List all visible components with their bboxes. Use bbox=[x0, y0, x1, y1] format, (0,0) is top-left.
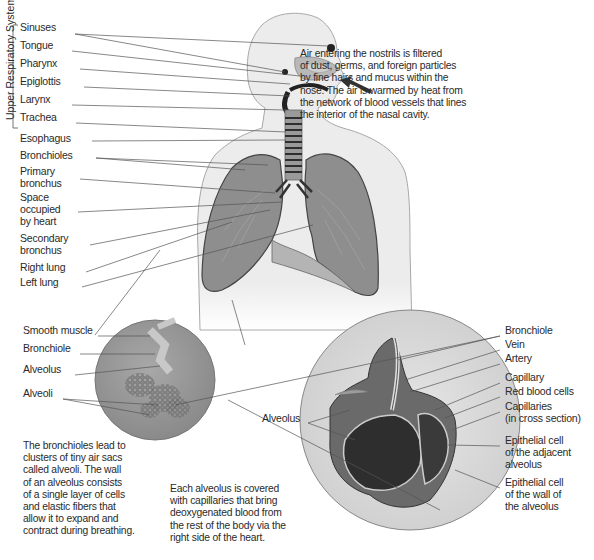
anatomy-label-7: Bronchioles bbox=[20, 149, 73, 161]
anatomy-label-2: Pharynx bbox=[20, 57, 57, 69]
note-line: The bronchioles lead to bbox=[23, 440, 163, 452]
anatomy-label-12: by heart bbox=[20, 215, 56, 227]
upper-respiratory-system-label: Upper Respiratory System bbox=[4, 0, 16, 120]
cross-section-label-6: (in cross section) bbox=[505, 412, 581, 424]
alveoli-label-2: Alveolus bbox=[23, 363, 61, 375]
alveoli-label-3: Alveoli bbox=[23, 387, 53, 399]
cross-section-label-5: Capillaries bbox=[505, 400, 552, 412]
note-line: the rest of the body via the bbox=[170, 520, 320, 532]
anatomy-label-11: occupied bbox=[20, 203, 60, 215]
anatomy-label-14: bronchus bbox=[20, 244, 62, 256]
note-line: the network of blood vessels that lines bbox=[300, 97, 500, 109]
anatomy-label-5: Trachea bbox=[20, 111, 57, 123]
note-line: of an alveolus consists bbox=[23, 477, 163, 489]
note-line: Air entering the nostrils is filtered bbox=[300, 48, 500, 60]
anatomy-label-3: Epiglottis bbox=[20, 75, 61, 87]
note-line: the interior of the nasal cavity. bbox=[300, 109, 500, 121]
anatomy-label-0: Sinuses bbox=[20, 21, 56, 33]
anatomy-label-13: Secondary bbox=[20, 232, 68, 244]
note-line: allow it to expand and bbox=[23, 513, 163, 525]
bronchioles-note: The bronchioles lead toclusters of tiny … bbox=[23, 440, 163, 538]
note-line: clusters of tiny air sacs bbox=[23, 452, 163, 464]
cross-section-label-3: Capillary bbox=[505, 371, 544, 383]
cross-section-label-8: of the adjacent bbox=[505, 446, 571, 458]
cross-section-label-4: Red blood cells bbox=[505, 385, 574, 397]
cross-section-label-7: Epithelial cell bbox=[505, 434, 563, 446]
capillary-note: Each alveolus is coveredwith capillaries… bbox=[170, 483, 320, 544]
note-line: deoxygenated blood from bbox=[170, 507, 320, 519]
cross-section-label-12: the alveolus bbox=[505, 500, 559, 512]
anatomy-label-10: Space bbox=[20, 191, 49, 203]
note-line: Each alveolus is covered bbox=[170, 483, 320, 495]
cross-section-label-2: Artery bbox=[505, 352, 532, 364]
cross-section-label-11: of the wall of bbox=[505, 488, 561, 500]
cross-section-label-0: Bronchiole bbox=[505, 324, 553, 336]
alveoli-label-0: Smooth muscle bbox=[23, 324, 93, 336]
note-line: of a single layer of cells bbox=[23, 489, 163, 501]
alveoli-label-1: Bronchiole bbox=[23, 342, 71, 354]
cross-section-label-9: alveolus bbox=[505, 458, 542, 470]
note-line: of dust, germs, and foreign particles bbox=[300, 60, 500, 72]
anatomy-label-16: Left lung bbox=[20, 276, 58, 288]
note-line: and elastic fibers that bbox=[23, 501, 163, 513]
anatomy-label-8: Primary bbox=[20, 165, 55, 177]
anatomy-label-9: bronchus bbox=[20, 177, 62, 189]
nasal-cavity-note: Air entering the nostrils is filteredof … bbox=[300, 48, 500, 121]
alveolus-inner-label: Alveolus bbox=[262, 412, 300, 424]
note-line: by fine hairs and mucus within the bbox=[300, 72, 500, 84]
anatomy-label-6: Esophagus bbox=[20, 132, 71, 144]
note-line: contract during breathing. bbox=[23, 525, 163, 537]
cross-section-label-1: Vein bbox=[505, 338, 525, 350]
anatomy-label-4: Larynx bbox=[20, 93, 50, 105]
note-line: nose. The air is warmed by heat from bbox=[300, 85, 500, 97]
cross-section-label-10: Epithelial cell bbox=[505, 476, 563, 488]
anatomy-label-15: Right lung bbox=[20, 261, 65, 273]
note-line: called alveoli. The wall bbox=[23, 464, 163, 476]
anatomy-label-1: Tongue bbox=[20, 39, 53, 51]
note-line: with capillaries that bring bbox=[170, 495, 320, 507]
note-line: right side of the heart. bbox=[170, 532, 320, 544]
